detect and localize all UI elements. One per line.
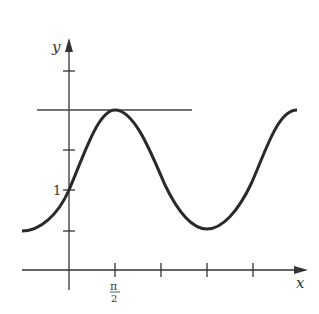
curve: [22, 110, 297, 231]
y-axis-label: y: [51, 38, 61, 56]
y-axis-arrow-icon: [65, 38, 73, 52]
x-axis-label: x: [296, 274, 305, 292]
x-tick-label-pi: π: [110, 280, 117, 293]
x-axis-arrow-icon: [294, 266, 308, 274]
x-tick-label-two: 2: [111, 293, 117, 304]
chart: y x 1 π 2: [0, 0, 319, 314]
y-tick-label-1: 1: [53, 183, 61, 198]
